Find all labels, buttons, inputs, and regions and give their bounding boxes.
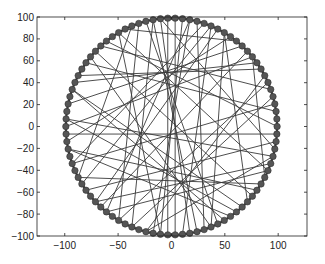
graph-node (172, 15, 178, 21)
graph-node (75, 72, 81, 78)
graph-node (201, 226, 207, 232)
graph-node (233, 38, 239, 44)
graph-node (75, 174, 81, 180)
graph-node (69, 86, 75, 92)
graph-node (109, 33, 115, 39)
graph-node (79, 181, 85, 187)
y-tick-label: 100 (17, 12, 34, 23)
graph-node (150, 230, 156, 236)
graph-node (136, 226, 142, 232)
graph-node (221, 29, 227, 35)
graph-node (87, 193, 93, 199)
graph-node (65, 146, 71, 152)
y-tick-label: 0 (28, 121, 34, 132)
graph-node (227, 213, 233, 219)
graph-node (72, 79, 78, 85)
graph-chart: −100−50050100 −100−80−60−40−200204060801… (0, 0, 325, 264)
y-tick-label: 40 (23, 77, 35, 88)
y-tick-label: −100 (11, 231, 34, 242)
graph-node (268, 160, 274, 166)
y-tick-label: −40 (17, 165, 34, 176)
graph-node (274, 131, 280, 137)
graph-node (150, 17, 156, 23)
graph-node (92, 199, 98, 205)
graph-node (63, 123, 69, 129)
graph-node (249, 54, 255, 60)
graph-node (87, 54, 93, 60)
graph-node (273, 108, 279, 114)
y-tick-label: 60 (23, 55, 35, 66)
y-tick-label: 80 (23, 33, 35, 44)
plot-area (37, 17, 307, 236)
graph-node (274, 123, 280, 129)
y-tick-label: −80 (17, 209, 34, 220)
graph-node (179, 15, 185, 21)
graph-node (129, 224, 135, 230)
graph-node (258, 66, 264, 72)
graph-node (67, 93, 73, 99)
graph-node (122, 26, 128, 32)
graph-node (103, 38, 109, 44)
y-tick-label: −60 (17, 187, 34, 198)
y-tick-label: 20 (23, 99, 35, 110)
graph-node (157, 15, 163, 21)
x-tick-label: −100 (53, 240, 76, 251)
graph-node (272, 101, 278, 107)
graph-node (265, 167, 271, 173)
graph-node (92, 48, 98, 54)
graph-node (83, 187, 89, 193)
graph-node (194, 228, 200, 234)
graph-node (239, 43, 245, 49)
y-tick-label: −20 (17, 143, 34, 154)
graph-node (221, 217, 227, 223)
graph-node (65, 101, 71, 107)
graph-node (64, 108, 70, 114)
graph-node (272, 146, 278, 152)
graph-node (172, 232, 178, 238)
graph-node (109, 213, 115, 219)
graph-node (187, 17, 193, 23)
graph-node (69, 160, 75, 166)
graph-node (273, 138, 279, 144)
graph-node (254, 187, 260, 193)
graph-node (98, 204, 104, 210)
graph-node (258, 181, 264, 187)
graph-node (179, 231, 185, 237)
graph-node (244, 199, 250, 205)
graph-node (254, 60, 260, 66)
graph-node (79, 66, 85, 72)
graph-node (262, 72, 268, 78)
graph-node (201, 20, 207, 26)
graph-node (244, 48, 250, 54)
graph-node (143, 228, 149, 234)
graph-node (227, 33, 233, 39)
graph-node (249, 193, 255, 199)
graph-node (274, 116, 280, 122)
x-tick-label: 100 (270, 240, 287, 251)
x-tick-label: 0 (169, 240, 175, 251)
graph-node (187, 230, 193, 236)
graph-node (143, 18, 149, 24)
graph-node (270, 153, 276, 159)
graph-node (165, 232, 171, 238)
graph-node (165, 15, 171, 21)
graph-node (208, 23, 214, 29)
graph-node (262, 174, 268, 180)
x-tick-label: −50 (110, 240, 127, 251)
graph-node (268, 86, 274, 92)
graph-node (208, 224, 214, 230)
graph-node (67, 153, 73, 159)
graph-node (215, 221, 221, 227)
graph-node (83, 60, 89, 66)
graph-node (98, 43, 104, 49)
graph-node (265, 79, 271, 85)
graph-node (215, 26, 221, 32)
graph-node (233, 209, 239, 215)
graph-node (103, 209, 109, 215)
graph-node (270, 93, 276, 99)
graph-node (64, 138, 70, 144)
graph-node (72, 167, 78, 173)
graph-node (122, 221, 128, 227)
graph-node (129, 23, 135, 29)
graph-node (194, 18, 200, 24)
